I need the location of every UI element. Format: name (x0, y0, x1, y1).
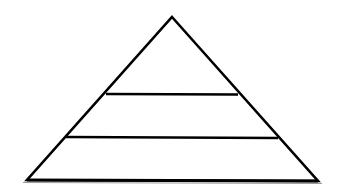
pyramid-base (27, 180, 318, 181)
pyramid-divider-middle (66, 137, 278, 138)
pyramid-diagram (0, 0, 340, 188)
pyramid-divider-top (106, 94, 238, 95)
